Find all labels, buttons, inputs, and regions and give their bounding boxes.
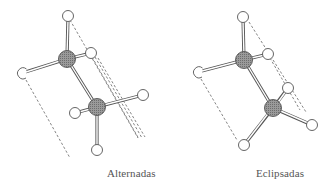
eclipsed-label: Eclipsadas <box>256 167 304 179</box>
hydrogen-atom <box>263 49 274 60</box>
hydrogen-atom <box>86 48 97 59</box>
hydrogen-atom <box>92 145 103 156</box>
ethane-conformations-diagram <box>0 0 335 190</box>
hydrogen-atom <box>239 140 250 151</box>
hydrogen-atom <box>238 12 249 23</box>
hydrogen-atom <box>194 67 203 78</box>
hydrogen-atom <box>138 90 149 101</box>
carbon-atom <box>59 51 76 68</box>
dashed-guides <box>201 22 306 140</box>
carbon-atom <box>265 100 282 117</box>
hydrogen-atom <box>283 83 294 94</box>
carbon-atom <box>89 99 106 116</box>
hydrogen-atom <box>307 120 318 131</box>
hydrogen-atom <box>63 11 74 22</box>
eclipsed-molecule <box>194 12 318 151</box>
staggered-label: Alternadas <box>107 167 156 179</box>
bonds <box>198 17 312 145</box>
hydrogen-atom <box>70 108 81 119</box>
hydrogen-atom <box>18 68 27 79</box>
carbon-atom <box>236 52 253 69</box>
staggered-molecule <box>18 11 149 159</box>
bond-highlights <box>26 20 139 146</box>
